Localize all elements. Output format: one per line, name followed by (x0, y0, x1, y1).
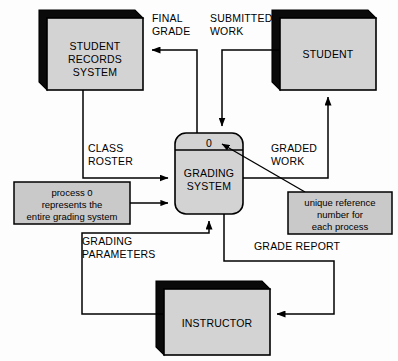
annotation-unique-reference-note[interactable]: unique reference number for each process (222, 144, 392, 234)
instructor-label: INSTRUCTOR (182, 317, 253, 329)
student-records-system-label-line2: RECORDS (68, 53, 122, 65)
grade-report-label: GRADE REPORT (254, 240, 341, 252)
final-grade-arrow (152, 50, 197, 133)
final-grade-label-line1: FINAL (152, 12, 183, 24)
grading-system-label-line1: GRADING (184, 167, 234, 179)
unique-reference-note-line1: unique reference (304, 197, 375, 208)
process-grading-system[interactable]: 0 GRADING SYSTEM (175, 133, 243, 214)
final-grade-label-line2: GRADE (152, 25, 190, 37)
data-flow-diagram-canvas: STUDENT RECORDS SYSTEM STUDENT INSTRUCTO… (0, 0, 398, 361)
external-entity-student-records-system[interactable]: STUDENT RECORDS SYSTEM (39, 10, 143, 90)
student-records-system-label-line3: SYSTEM (73, 66, 117, 78)
data-flow-submitted-work[interactable]: SUBMITTED WORK (210, 12, 280, 126)
graded-work-label-line1: GRADED (271, 142, 317, 154)
graded-work-label-line2: WORK (271, 155, 304, 167)
student-records-system-label-line1: STUDENT (70, 40, 121, 52)
annotation-process-zero-note[interactable]: process 0 represents the entire grading … (14, 182, 168, 224)
submitted-work-arrow (222, 50, 280, 126)
class-roster-label-line1: CLASS (88, 142, 123, 154)
grading-parameters-label-line2: PARAMETERS (82, 248, 156, 260)
submitted-work-label-line1: SUBMITTED (210, 12, 273, 24)
data-flow-class-roster[interactable]: CLASS ROSTER (83, 90, 168, 178)
student-label: STUDENT (303, 48, 354, 60)
external-entity-instructor[interactable]: INSTRUCTOR (156, 281, 270, 355)
submitted-work-label-line2: WORK (210, 25, 243, 37)
data-flow-final-grade[interactable]: FINAL GRADE (152, 12, 197, 133)
process-zero-note-line1: process 0 (51, 187, 92, 198)
data-flow-graded-work[interactable]: GRADED WORK (243, 97, 328, 178)
grading-system-label-line2: SYSTEM (187, 180, 231, 192)
process-zero-note-line2: represents the (42, 199, 103, 210)
unique-reference-note-line2: number for (317, 209, 363, 220)
process-zero-note-line3: entire grading system (27, 211, 118, 222)
unique-reference-note-line3: each process (312, 221, 369, 232)
external-entity-student[interactable]: STUDENT (272, 10, 376, 90)
grading-system-process-number: 0 (206, 137, 212, 149)
dfd-svg: STUDENT RECORDS SYSTEM STUDENT INSTRUCTO… (0, 0, 398, 361)
class-roster-label-line2: ROSTER (88, 155, 133, 167)
grading-parameters-label-line1: GRADING (82, 235, 132, 247)
